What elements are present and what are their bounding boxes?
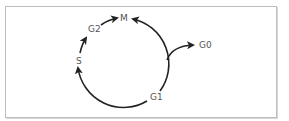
label-s: S <box>76 56 82 66</box>
label-g2: G2 <box>88 24 101 34</box>
label-g0: G0 <box>199 40 212 50</box>
cell-cycle-diagram: M G1 S G2 G0 <box>0 0 289 121</box>
arc-g2-to-m <box>101 18 117 25</box>
arc-g1-to-s <box>78 68 147 107</box>
arc-s-to-g2 <box>80 38 86 53</box>
arrow-to-g0 <box>167 45 193 60</box>
label-m: M <box>120 13 128 23</box>
label-g1: G1 <box>150 92 163 102</box>
arc-g1-to-m <box>133 19 169 91</box>
